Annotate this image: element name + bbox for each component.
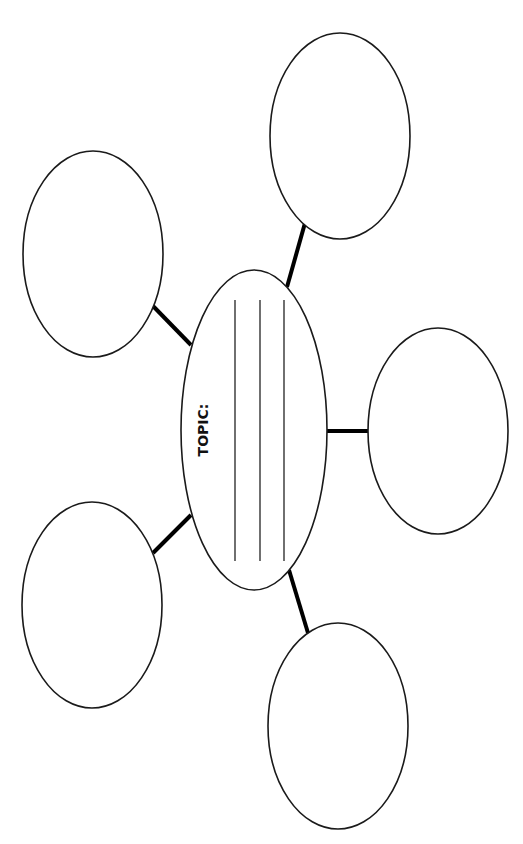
connector-top-left bbox=[153, 306, 191, 345]
connector-bottom-left bbox=[153, 515, 191, 553]
topic-label: TOPIC: bbox=[195, 404, 211, 457]
bubble-map-diagram: TOPIC: bbox=[0, 0, 523, 844]
bubble-bottom-right[interactable] bbox=[268, 623, 408, 829]
bubble-right[interactable] bbox=[368, 328, 508, 534]
bubble-top-right[interactable] bbox=[270, 33, 410, 239]
bubble-bottom-left[interactable] bbox=[22, 502, 162, 708]
connector-bottom-right bbox=[289, 570, 308, 633]
bubble-top-left[interactable] bbox=[23, 151, 163, 357]
connector-top-right bbox=[287, 223, 305, 287]
